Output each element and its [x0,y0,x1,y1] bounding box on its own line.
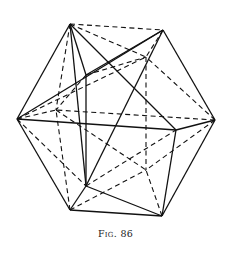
hidden-edge-CJ [17,57,146,119]
hidden-edge-DL [146,120,215,170]
visible-edges [17,24,215,216]
visible-edge-AC [17,24,70,119]
hidden-edge-GL [70,170,146,210]
visible-edge-BD [163,30,215,120]
visible-edge-DE [176,120,215,130]
figure-caption: Fig. 86 [0,228,231,239]
hidden-edge-CI [17,119,86,186]
visible-edge-CE [17,119,176,130]
hidden-edge-CK [17,110,56,119]
hidden-edge-GK [56,110,70,210]
icosahedron-diagram [0,0,231,254]
hidden-edge-AJ [70,24,146,57]
hidden-edge-FJ [86,57,146,75]
hidden-edge-HL [146,170,162,216]
hidden-edge-KL [56,110,146,170]
hidden-edge-AB [70,24,163,30]
hidden-edges [17,24,215,216]
visible-edge-CG [17,119,70,210]
